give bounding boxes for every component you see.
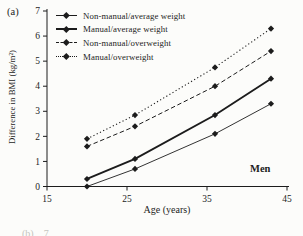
data-point-marker — [84, 183, 90, 189]
men-annotation: Men — [250, 163, 270, 174]
y-tick-label: 0 — [35, 182, 40, 192]
data-point-marker — [268, 48, 274, 54]
x-tick-label: 15 — [42, 194, 52, 204]
x-axis-title: Age (years) — [47, 204, 287, 215]
legend-row: Non-manual/overweight — [56, 36, 185, 50]
x-tick-label: 25 — [122, 194, 132, 204]
y-axis-title: Difference in BMI (kg/m²) — [7, 17, 19, 177]
diamond-marker-icon — [63, 12, 69, 18]
legend-row: Manual/average weight — [56, 23, 185, 37]
data-point-marker — [212, 83, 218, 89]
figure-panel-a: 0123456715253545 (a) Difference in BMI (… — [0, 0, 303, 236]
data-point-marker — [84, 136, 90, 142]
series-line — [87, 51, 271, 146]
data-point-marker — [84, 143, 90, 149]
legend-row: Manual/overweight — [56, 50, 185, 64]
y-tick-label: 6 — [35, 31, 40, 41]
data-point-marker — [268, 25, 274, 31]
y-tick-label: 1 — [35, 157, 40, 167]
data-point-marker — [132, 123, 138, 129]
y-tick-label: 2 — [35, 132, 40, 142]
data-point-marker — [132, 112, 138, 118]
legend: Non-manual/average weight Manual/average… — [56, 9, 185, 63]
data-point-marker — [212, 64, 218, 70]
y-tick-label: 5 — [35, 56, 40, 66]
y-tick-label: 7 — [35, 6, 40, 16]
series-line — [87, 79, 271, 179]
next-panel-fragment: (b) 7 — [22, 228, 49, 236]
diamond-marker-icon — [63, 53, 69, 59]
data-point-marker — [212, 131, 218, 137]
legend-item-label: Non-manual/average weight — [83, 11, 185, 21]
legend-row: Non-manual/average weight — [56, 9, 185, 23]
y-tick-label: 4 — [35, 81, 40, 91]
legend-line-sample-dashed — [56, 38, 77, 47]
legend-line-sample-solid-thick — [56, 25, 77, 34]
diamond-marker-icon — [63, 40, 69, 46]
data-point-marker — [132, 166, 138, 172]
legend-item-label: Manual/overweight — [83, 52, 154, 62]
legend-item-label: Manual/average weight — [83, 24, 168, 34]
legend-line-sample-solid-thin — [56, 11, 77, 20]
diamond-marker-icon — [63, 26, 69, 32]
legend-line-sample-dotted — [56, 52, 77, 61]
data-point-marker — [84, 176, 90, 182]
panel-label: (a) — [7, 6, 19, 17]
data-point-marker — [268, 101, 274, 107]
series-line — [87, 104, 271, 187]
y-tick-label: 3 — [35, 106, 40, 116]
x-tick-label: 35 — [202, 194, 212, 204]
x-tick-label: 45 — [282, 194, 292, 204]
legend-item-label: Non-manual/overweight — [83, 38, 171, 48]
